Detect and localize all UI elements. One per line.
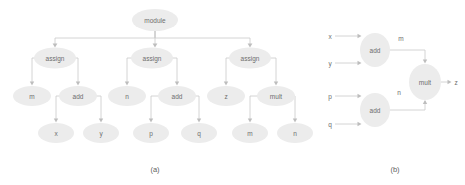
input-label-p: p <box>328 93 332 101</box>
tree-node-mult[interactable]: mult <box>257 86 295 106</box>
input-label-x: x <box>328 33 332 40</box>
arrow-add2-icon <box>175 82 179 86</box>
arrow-assign3-icon <box>248 44 253 48</box>
arrow-m2-icon <box>248 119 252 123</box>
arrow-n-into-mult-icon <box>423 100 427 104</box>
node-label: m <box>247 130 252 137</box>
edge-module-assign3 <box>155 31 250 46</box>
arrow-x1-icon <box>54 119 58 123</box>
node-label: module <box>144 17 166 24</box>
tree-node-q[interactable]: q <box>181 123 217 143</box>
dataflow-node-add-top[interactable]: add <box>360 33 390 67</box>
tree-node-p[interactable]: p <box>133 123 169 143</box>
node-label: q <box>197 130 201 138</box>
arrow-q-icon <box>358 122 362 126</box>
tree-node-m-lhs[interactable]: m <box>13 86 51 106</box>
tree-node-n-lhs[interactable]: n <box>108 86 146 106</box>
tree-node-add-2[interactable]: add <box>158 86 196 106</box>
edge-module-assign1 <box>55 31 155 46</box>
arrow-q1-icon <box>197 119 201 123</box>
arrow-z1-icon <box>224 82 228 86</box>
caption-a: (a) <box>150 165 160 174</box>
tree-node-assign-2[interactable]: assign <box>131 48 173 69</box>
node-label: p <box>149 130 153 138</box>
tree-node-module[interactable]: module <box>132 9 178 31</box>
panel-b-dataflow: add add mult x y p q z m n (b) <box>328 33 457 174</box>
caption-b: (b) <box>390 165 400 174</box>
dataflow-node-add-bottom[interactable]: add <box>360 93 390 127</box>
arrow-n1-icon <box>125 82 129 86</box>
node-label: mult <box>270 93 282 100</box>
node-label: assign <box>241 55 260 63</box>
node-label: mult <box>419 79 431 86</box>
node-label: add <box>370 107 381 114</box>
tree-node-add-1[interactable]: add <box>59 86 97 106</box>
wire-label-m: m <box>398 35 403 42</box>
arrow-y1-icon <box>99 119 103 123</box>
node-label: z <box>224 93 227 100</box>
arrow-n2-icon <box>293 119 297 123</box>
arrow-y-icon <box>358 61 362 65</box>
tree-node-z-lhs[interactable]: z <box>207 86 245 106</box>
node-label: assign <box>46 55 65 63</box>
edge-addtop-mult <box>390 50 425 62</box>
figure-svg: module assign assign assign m add <box>0 0 465 185</box>
arrow-p1-icon <box>149 119 153 123</box>
node-label: m <box>29 93 34 100</box>
output-label-z: z <box>454 79 457 86</box>
dataflow-node-mult[interactable]: mult <box>409 64 441 100</box>
tree-node-n-rhs[interactable]: n <box>277 123 313 143</box>
arrow-p-icon <box>358 94 362 98</box>
node-label: add <box>73 93 84 100</box>
arrow-m1-icon <box>30 82 34 86</box>
arrow-x-icon <box>358 34 362 38</box>
tree-node-x[interactable]: x <box>38 123 74 143</box>
input-label-q: q <box>328 121 332 129</box>
arrow-assign1-icon <box>53 44 58 48</box>
arrow-z-out-icon <box>448 80 452 84</box>
arrow-add1-icon <box>76 82 80 86</box>
node-label: n <box>293 130 297 137</box>
node-label: assign <box>143 55 162 63</box>
tree-node-assign-1[interactable]: assign <box>34 48 76 69</box>
wire-label-n: n <box>397 89 401 96</box>
edge-addbottom-mult <box>390 101 425 110</box>
input-label-y: y <box>328 60 332 68</box>
tree-node-y[interactable]: y <box>83 123 119 143</box>
node-label: n <box>125 93 129 100</box>
node-label: add <box>172 93 183 100</box>
node-label: add <box>370 47 381 54</box>
arrow-m-into-mult-icon <box>423 60 427 64</box>
arrow-assign2-icon <box>153 44 158 48</box>
tree-node-m-rhs[interactable]: m <box>232 123 268 143</box>
panel-a-edges <box>32 31 295 121</box>
figure-container: module assign assign assign m add <box>0 0 465 185</box>
arrow-mult1-icon <box>274 82 278 86</box>
panel-a-tree: module assign assign assign m add <box>13 9 313 174</box>
tree-node-assign-3[interactable]: assign <box>229 48 271 69</box>
